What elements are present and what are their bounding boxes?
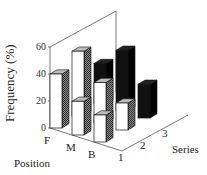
svg-text:40: 40 [36, 68, 46, 79]
bar [72, 97, 91, 135]
y-axis-label: Frequency (%) [4, 44, 15, 122]
x-axis-label: Position [14, 158, 50, 169]
bar [94, 111, 113, 142]
series-label: 1 [118, 151, 124, 163]
position-label: M [66, 141, 76, 153]
z-axis-label: Series [172, 144, 199, 155]
bar [50, 70, 69, 128]
bar [116, 99, 135, 130]
position-label: F [44, 134, 50, 146]
svg-text:0: 0 [41, 122, 46, 133]
series-label: 3 [162, 127, 168, 139]
bar [138, 80, 157, 118]
series-label: 2 [140, 139, 146, 151]
svg-text:60: 60 [36, 41, 46, 52]
position-label: B [88, 148, 95, 160]
svg-text:20: 20 [36, 95, 46, 106]
